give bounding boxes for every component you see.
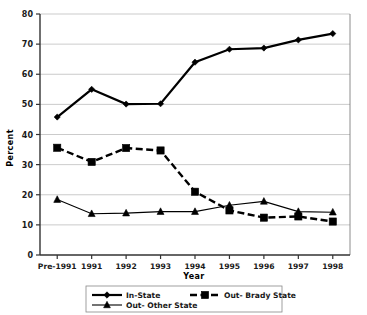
square-icon [201, 291, 208, 298]
y-axis-title: Percent [6, 129, 15, 167]
data-point-marker [123, 101, 129, 107]
data-point-marker [157, 147, 164, 154]
legend-label: Out- Brady State [224, 291, 296, 300]
data-point-marker [261, 45, 267, 51]
data-point-marker [88, 158, 95, 165]
chart-container: 01020304050607080 Pre-199119911992199319… [0, 0, 367, 315]
y-tick-label: 0 [27, 251, 33, 260]
data-point-marker [295, 37, 301, 43]
data-point-marker [295, 213, 302, 220]
x-tick-label: 1994 [184, 262, 205, 271]
x-tick-label: 1995 [219, 262, 240, 271]
y-tick-label: 70 [22, 40, 34, 49]
data-point-marker [260, 198, 267, 205]
y-tick-label: 10 [22, 221, 34, 230]
x-tick-label: Pre-1991 [38, 262, 77, 271]
x-tick-label: 1997 [288, 262, 309, 271]
x-tick-label: 1996 [253, 262, 274, 271]
x-tick-label: 1998 [322, 262, 343, 271]
data-point-marker [226, 207, 233, 214]
x-axis-title: Year [182, 272, 204, 281]
data-point-marker [329, 218, 336, 225]
data-point-marker [123, 144, 130, 151]
legend-label: In-State [126, 291, 160, 300]
y-tick-labels-group: 01020304050607080 [22, 10, 34, 260]
data-point-marker [226, 46, 232, 52]
line-chart-svg: 01020304050607080 Pre-199119911992199319… [0, 0, 367, 315]
data-point-marker [191, 188, 198, 195]
x-tick-labels-group: Pre-199119911992199319941995199619971998 [38, 262, 344, 271]
y-tick-label: 20 [22, 191, 34, 200]
y-tick-label: 50 [22, 100, 34, 109]
y-tick-label: 30 [22, 161, 34, 170]
x-tick-label: 1992 [116, 262, 137, 271]
chart-legend: In-StateOut- Brady StateOut- Other State [86, 286, 296, 312]
legend-label: Out- Other State [126, 301, 197, 310]
y-tick-label: 80 [22, 10, 34, 19]
x-tick-label: 1991 [81, 262, 102, 271]
series-group [54, 30, 337, 225]
y-tick-label: 60 [22, 70, 34, 79]
legend-entry-out-brady-state[interactable]: Out- Brady State [190, 291, 296, 300]
y-tick-label: 40 [22, 131, 34, 140]
data-point-marker [330, 30, 336, 36]
data-point-marker [54, 144, 61, 151]
data-point-marker [54, 196, 61, 203]
data-point-marker [260, 214, 267, 221]
x-tick-label: 1993 [150, 262, 171, 271]
series-out-other-state [54, 196, 336, 217]
